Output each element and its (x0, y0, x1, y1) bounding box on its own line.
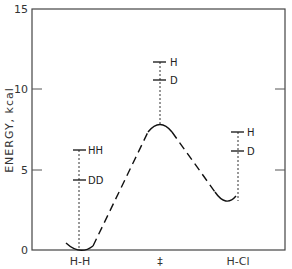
svg-text:15: 15 (14, 3, 28, 16)
levels-transition-state: H D (153, 57, 178, 125)
x-category-labels: H-H ‡ H-Cl (70, 255, 250, 268)
svg-text:H: H (247, 127, 255, 138)
svg-text:5: 5 (21, 164, 28, 177)
y-axis-label: ENERGY, kcal (3, 87, 16, 173)
svg-text:H-H: H-H (70, 255, 91, 268)
energy-diagram: 15 10 5 0 ENERGY, kcal HH DD H D H D H-H (0, 0, 292, 269)
svg-text:‡: ‡ (157, 255, 163, 268)
energy-curve (66, 125, 236, 251)
levels-h-cl: H D (231, 127, 255, 201)
svg-text:10: 10 (14, 83, 28, 96)
svg-text:H: H (170, 57, 178, 68)
svg-text:D: D (247, 146, 255, 157)
svg-text:D: D (170, 75, 178, 86)
y-tick-labels: 15 10 5 0 (14, 3, 28, 257)
svg-text:H-Cl: H-Cl (227, 255, 250, 268)
svg-text:HH: HH (88, 145, 103, 156)
svg-text:0: 0 (21, 244, 28, 257)
svg-text:DD: DD (88, 175, 104, 186)
